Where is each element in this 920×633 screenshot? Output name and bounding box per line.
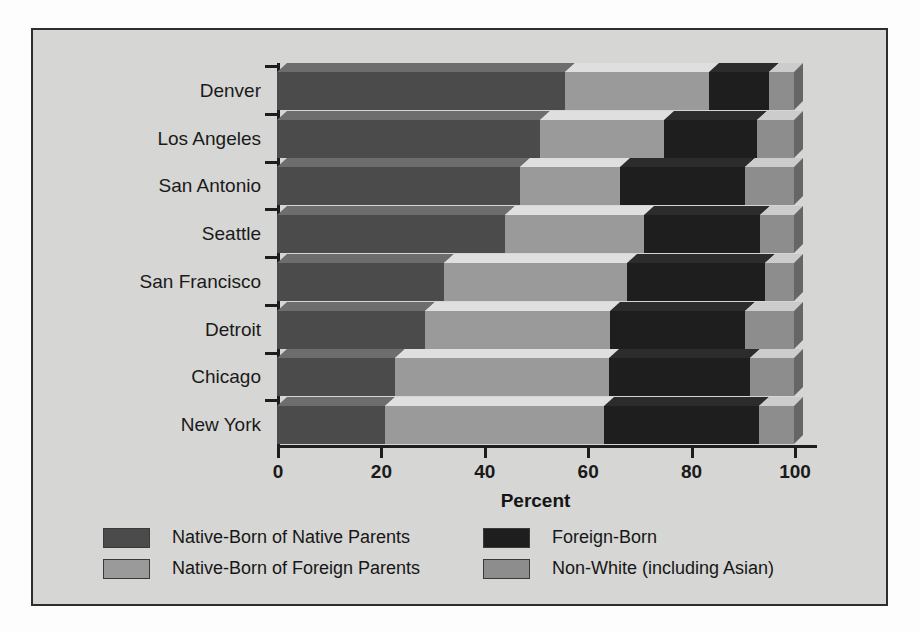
bar-row[interactable] [277, 167, 794, 205]
category-label-los-angeles: Los Angeles [157, 128, 261, 150]
bar-segment[interactable] [277, 406, 385, 444]
bar-segment[interactable] [505, 215, 644, 253]
bar-segment[interactable] [425, 311, 610, 349]
plot-area: DenverLos AngelesSan AntonioSeattleSan F… [277, 63, 794, 445]
bar-segment-top-face [277, 254, 454, 263]
legend-label: Native-Born of Foreign Parents [172, 558, 420, 579]
legend-label: Non-White (including Asian) [552, 558, 774, 579]
bar-segment-top-face [627, 254, 775, 263]
bar-segment-side-face [794, 111, 803, 158]
x-axis-tick [380, 448, 383, 458]
x-axis-tick-label: 60 [578, 461, 599, 483]
bar-row[interactable] [277, 263, 794, 301]
bar-segment[interactable] [709, 72, 769, 110]
bar-segment-side-face [794, 349, 803, 396]
bar-segment[interactable] [277, 311, 425, 349]
bar-row[interactable] [277, 406, 794, 444]
legend-item[interactable]: Foreign-Born [483, 522, 843, 553]
category-label-denver: Denver [200, 80, 261, 102]
bar-segment[interactable] [520, 167, 620, 205]
bar-segment[interactable] [277, 167, 520, 205]
bar-segment-side-face [794, 302, 803, 349]
bar-segment-top-face [277, 158, 530, 167]
category-label-seattle: Seattle [202, 223, 261, 245]
bar-segment-top-face [277, 349, 405, 358]
bar-segment[interactable] [395, 358, 609, 396]
y-axis-tick [265, 352, 277, 355]
bar-segment-top-face [395, 349, 619, 358]
category-label-detroit: Detroit [205, 319, 261, 341]
bar-row[interactable] [277, 72, 794, 110]
bar-segment[interactable] [765, 263, 794, 301]
x-axis-line [277, 445, 817, 448]
bar-segment[interactable] [565, 72, 709, 110]
chart-page: DenverLos AngelesSan AntonioSeattleSan F… [0, 0, 920, 633]
legend-item[interactable]: Native-Born of Foreign Parents [103, 553, 463, 584]
legend-swatch [103, 528, 150, 548]
x-axis-tick [587, 448, 590, 458]
bar-segment[interactable] [760, 215, 794, 253]
bar-row[interactable] [277, 120, 794, 158]
x-axis-tick-label: 40 [474, 461, 495, 483]
bar-segment[interactable] [540, 120, 664, 158]
x-axis-tick-label: 20 [371, 461, 392, 483]
bar-segment-top-face [540, 111, 674, 120]
x-axis-tick-label: 100 [779, 461, 811, 483]
bar-segment-top-face [565, 63, 719, 72]
bar-segment[interactable] [604, 406, 759, 444]
bar-segment[interactable] [385, 406, 604, 444]
chart-legend: Native-Born of Native ParentsForeign-Bor… [103, 522, 843, 584]
y-axis-tick [265, 113, 277, 116]
x-axis-tick [484, 448, 487, 458]
bar-segment[interactable] [750, 358, 794, 396]
bar-segment-top-face [277, 63, 575, 72]
x-axis-title: Percent [277, 490, 794, 512]
bar-row[interactable] [277, 311, 794, 349]
y-axis-tick [265, 208, 277, 211]
legend-item[interactable]: Non-White (including Asian) [483, 553, 843, 584]
bar-segment[interactable] [609, 358, 750, 396]
bar-segment[interactable] [759, 406, 794, 444]
legend-item[interactable]: Native-Born of Native Parents [103, 522, 463, 553]
bar-segment-top-face [277, 302, 435, 311]
bar-row[interactable] [277, 358, 794, 396]
figure-panel: DenverLos AngelesSan AntonioSeattleSan F… [31, 28, 888, 606]
x-axis-tick [794, 448, 797, 458]
bar-segment-top-face [505, 206, 654, 215]
legend-swatch [483, 559, 530, 579]
bar-segment[interactable] [277, 215, 505, 253]
x-axis-tick-label: 0 [273, 461, 284, 483]
bar-segment-top-face [664, 111, 767, 120]
bar-segment[interactable] [277, 120, 540, 158]
bar-segment[interactable] [277, 72, 565, 110]
legend-label: Native-Born of Native Parents [172, 527, 410, 548]
bar-segment-top-face [444, 254, 637, 263]
x-axis-tick-label: 80 [681, 461, 702, 483]
bar-segment-top-face [604, 397, 769, 406]
bar-segment[interactable] [757, 120, 794, 158]
bar-segment[interactable] [620, 167, 745, 205]
bar-segment-side-face [794, 206, 803, 253]
bar-segment[interactable] [627, 263, 765, 301]
category-label-san-francisco: San Francisco [140, 271, 261, 293]
legend-swatch [483, 528, 530, 548]
bar-segment[interactable] [664, 120, 757, 158]
category-label-san-antonio: San Antonio [159, 175, 261, 197]
bar-segment[interactable] [277, 263, 444, 301]
category-label-new-york: New York [181, 414, 261, 436]
bar-segment[interactable] [277, 358, 395, 396]
bar-row[interactable] [277, 215, 794, 253]
bar-segment-top-face [277, 397, 395, 406]
x-axis-tick [691, 448, 694, 458]
bar-segment[interactable] [745, 311, 794, 349]
bar-segment[interactable] [644, 215, 760, 253]
x-axis-tick [277, 448, 280, 458]
bar-segment[interactable] [610, 311, 745, 349]
bar-segment[interactable] [745, 167, 794, 205]
bar-segment[interactable] [769, 72, 794, 110]
bar-segment-top-face [385, 397, 614, 406]
bar-segment-top-face [520, 158, 630, 167]
category-label-chicago: Chicago [191, 366, 261, 388]
bar-segment[interactable] [444, 263, 627, 301]
y-axis-tick [265, 399, 277, 402]
